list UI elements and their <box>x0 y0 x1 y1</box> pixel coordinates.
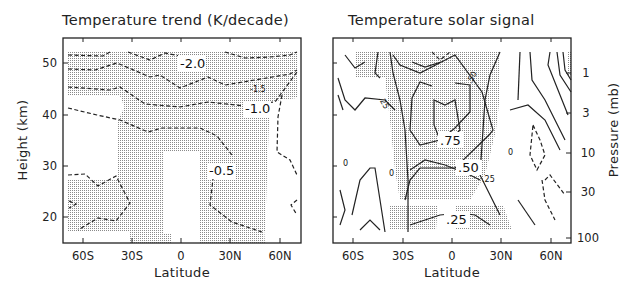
right-panel: Temperature solar signal <box>333 12 621 280</box>
left-x-tick-labels: 60S 30S 0 30N 60N <box>72 249 292 263</box>
right-x-axis-label: Latitude <box>424 265 480 280</box>
svg-text:0: 0 <box>177 249 184 263</box>
left-y-tick-labels: 20 30 40 50 <box>42 56 57 224</box>
right-y-tick-labels: 1 3 10 30 100 <box>577 66 599 245</box>
svg-text:30N: 30N <box>218 249 241 263</box>
figure: Temperature trend (K/decade) <box>0 0 630 291</box>
label-minus-1-5: -1.5 <box>250 85 266 94</box>
left-panel: Temperature trend (K/decade) <box>15 12 301 280</box>
left-x-axis-label: Latitude <box>154 265 210 280</box>
left-y-axis-label: Height (km) <box>15 100 30 181</box>
svg-text:30N: 30N <box>489 249 512 263</box>
svg-text:20: 20 <box>42 210 57 224</box>
svg-text:30: 30 <box>581 185 596 199</box>
right-title: Temperature solar signal <box>347 12 534 28</box>
svg-text:1: 1 <box>582 66 589 80</box>
label-zero-1: 0 <box>343 159 348 168</box>
left-significance-shading <box>68 52 297 243</box>
svg-text:60S: 60S <box>342 249 364 263</box>
svg-text:40: 40 <box>42 108 57 122</box>
svg-text:60N: 60N <box>539 249 562 263</box>
label-minus-0-5: -0.5 <box>209 163 234 178</box>
svg-text:50: 50 <box>42 56 57 70</box>
svg-text:0: 0 <box>448 249 455 263</box>
svg-text:10: 10 <box>581 146 596 160</box>
label-minus-1-0: -1.0 <box>245 101 270 116</box>
svg-text:60N: 60N <box>268 249 291 263</box>
label-zero-2: 0 <box>389 169 394 178</box>
label-zero-3: 0 <box>508 148 513 157</box>
left-title: Temperature trend (K/decade) <box>61 12 289 28</box>
svg-text:30: 30 <box>42 159 57 173</box>
label-0-25: .25 <box>446 212 467 227</box>
right-x-tick-labels: 60S 30S 0 30N 60N <box>342 249 563 263</box>
svg-text:3: 3 <box>582 106 589 120</box>
label-0-75: .75 <box>440 133 461 148</box>
svg-text:30S: 30S <box>121 249 143 263</box>
right-y-axis-label: Pressure (mb) <box>606 83 621 178</box>
svg-text:30S: 30S <box>392 249 414 263</box>
label-0-25-small-2: .25 <box>482 175 495 184</box>
svg-text:100: 100 <box>577 231 599 245</box>
left-y-ticks <box>63 63 68 217</box>
svg-text:60S: 60S <box>72 249 94 263</box>
label-0-50: .50 <box>458 160 479 175</box>
label-minus-2-0: -2.0 <box>180 56 205 71</box>
